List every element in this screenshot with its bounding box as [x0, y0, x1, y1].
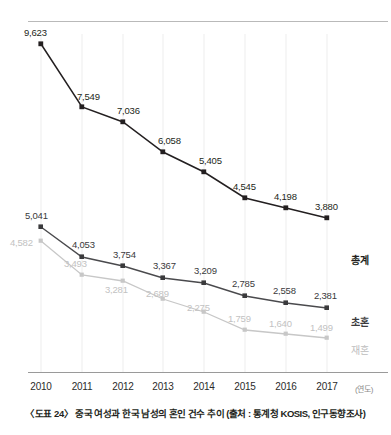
- legend-label-remarriage: 재혼: [351, 342, 368, 357]
- data-label-first-2014: 3,209: [194, 266, 217, 276]
- x-axis-tick-2014: 2014: [182, 381, 226, 392]
- data-label-total-2010: 9,623: [24, 28, 47, 38]
- data-label-first-2013: 3,367: [153, 261, 176, 271]
- data-label-total-2012: 7,036: [117, 106, 140, 116]
- legend-label-first-marriage: 초혼: [351, 314, 368, 329]
- data-label-remarry-2014: 2,275: [187, 303, 210, 313]
- data-label-total-2011: 7,549: [77, 92, 100, 102]
- line-chart-plot-area: 9,623 7,549 7,036 6,058 5,405 4,545 4,19…: [0, 0, 391, 391]
- x-axis-tick-2017: 2017: [305, 381, 349, 392]
- x-axis-tick-2010: 2010: [19, 381, 63, 392]
- data-label-first-2011: 4,053: [72, 240, 95, 250]
- data-label-remarry-2012: 3,281: [105, 285, 128, 295]
- x-axis-unit-label: (연도): [355, 383, 373, 394]
- data-label-remarry-2013: 2,689: [146, 289, 169, 299]
- data-label-total-2013: 6,058: [158, 136, 181, 146]
- data-label-first-2015: 2,785: [232, 279, 255, 289]
- data-label-total-2017: 3,880: [315, 202, 338, 212]
- data-label-total-2016: 4,198: [274, 192, 297, 202]
- chart-figure: 9,623 7,549 7,036 6,058 5,405 4,545 4,19…: [0, 0, 391, 435]
- x-axis-tick-2016: 2016: [264, 381, 308, 392]
- x-axis-tick-2011: 2011: [60, 381, 104, 392]
- x-axis-tick-2013: 2013: [141, 381, 185, 392]
- x-axis-tick-2015: 2015: [223, 381, 267, 392]
- data-label-first-2017: 2,381: [314, 291, 337, 301]
- data-label-remarry-2015: 1,759: [228, 314, 251, 324]
- data-label-remarry-2017: 1,499: [310, 323, 333, 333]
- data-label-first-2016: 2,558: [273, 286, 296, 296]
- data-label-total-2014: 5,405: [199, 156, 222, 166]
- legend-label-total: 총계: [351, 252, 368, 267]
- data-label-remarry-2010: 4,582: [10, 238, 33, 248]
- data-label-remarry-2011: 3,493: [64, 259, 87, 269]
- data-label-first-2010: 5,041: [25, 211, 48, 221]
- figure-caption: 〈도표 24〉 중국 여성과 한국 남성의 혼인 건수 추이 (출처 : 통계청…: [0, 406, 391, 420]
- data-label-total-2015: 4,545: [233, 182, 256, 192]
- data-label-remarry-2016: 1,640: [269, 319, 292, 329]
- data-label-first-2012: 3,754: [113, 250, 136, 260]
- x-axis-tick-2012: 2012: [101, 381, 145, 392]
